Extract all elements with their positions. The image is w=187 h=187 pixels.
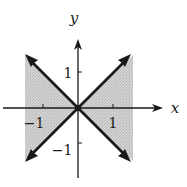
y-tick-label-neg1: −1 — [52, 142, 73, 158]
x-tick-label-pos1: 1 — [109, 115, 118, 131]
x-axis-label: x — [171, 99, 180, 117]
y-axis-label: y — [69, 9, 79, 27]
graph-canvas: y x 1 −1 1 −1 — [0, 0, 187, 187]
x-tick-label-neg1: −1 — [24, 115, 45, 131]
y-tick-label-pos1: 1 — [64, 65, 73, 81]
origin-point — [75, 105, 81, 111]
